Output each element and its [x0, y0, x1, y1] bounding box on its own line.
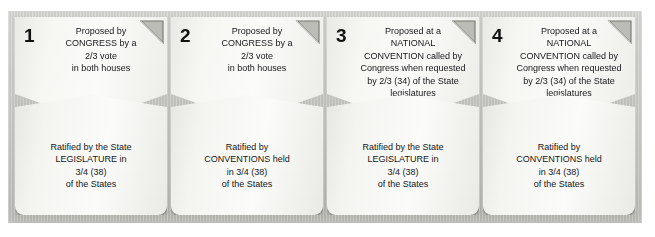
ratification-line: Ratified by the State — [20, 141, 162, 153]
panel-number: 3 — [336, 26, 346, 45]
envelope-body: Ratified byCONVENTIONS heldin 3/4 (38)of… — [171, 95, 323, 215]
ratification-line: Ratified by — [176, 141, 318, 153]
proposal-line: CONVENTION called by — [353, 50, 473, 62]
proposal-line: in both houses — [41, 62, 161, 74]
ratification-line: Ratified by — [488, 141, 630, 153]
panel-number: 1 — [24, 26, 34, 45]
page-curl-icon — [295, 19, 321, 45]
proposal-line: 2/3 vote — [197, 50, 317, 62]
ratification-line: LEGISLATURE in — [20, 153, 162, 165]
amendment-process-diagram: 1Proposed byCONGRESS by a2/3 votein both… — [0, 0, 655, 237]
ratification-line: CONVENTIONS held — [488, 153, 630, 165]
proposal-line: by 2/3 (34) of the State — [353, 75, 473, 87]
amendment-method-panel-4[interactable]: 4Proposed at aNATIONALCONVENTION called … — [483, 17, 635, 215]
amendment-method-panel-2[interactable]: 2Proposed byCONGRESS by a2/3 votein both… — [171, 17, 323, 215]
panel-number: 4 — [492, 26, 502, 45]
ratification-line: in 3/4 (38) — [176, 166, 318, 178]
ratification-line: of the States — [20, 178, 162, 190]
page-curl-icon — [607, 19, 633, 45]
ratification-line: in 3/4 (38) — [488, 166, 630, 178]
envelope-body: Ratified by the StateLEGISLATURE in3/4 (… — [15, 95, 167, 215]
ratification-text: Ratified by the StateLEGISLATURE in3/4 (… — [20, 141, 162, 191]
envelope-body: Ratified by the StateLEGISLATURE in3/4 (… — [327, 95, 479, 215]
ratification-line: of the States — [176, 178, 318, 190]
envelope-body: Ratified byCONVENTIONS heldin 3/4 (38)of… — [483, 95, 635, 215]
ratification-line: 3/4 (38) — [20, 166, 162, 178]
ratification-line: 3/4 (38) — [332, 166, 474, 178]
page-curl-icon — [139, 19, 165, 45]
proposal-line: Congress when requested — [509, 62, 629, 74]
panel-row: 1Proposed byCONGRESS by a2/3 votein both… — [8, 11, 642, 223]
ratification-line: of the States — [488, 178, 630, 190]
ratification-text: Ratified by the StateLEGISLATURE in3/4 (… — [332, 141, 474, 191]
proposal-line: Congress when requested — [353, 62, 473, 74]
amendment-method-panel-3[interactable]: 3Proposed at aNATIONALCONVENTION called … — [327, 17, 479, 215]
ratification-line: CONVENTIONS held — [176, 153, 318, 165]
proposal-line: by 2/3 (34) of the State — [509, 75, 629, 87]
proposal-line: in both houses — [197, 62, 317, 74]
proposal-line: 2/3 vote — [41, 50, 161, 62]
ratification-line: Ratified by the State — [332, 141, 474, 153]
panel-number: 2 — [180, 26, 190, 45]
ratification-text: Ratified byCONVENTIONS heldin 3/4 (38)of… — [488, 141, 630, 191]
ratification-line: LEGISLATURE in — [332, 153, 474, 165]
amendment-method-panel-1[interactable]: 1Proposed byCONGRESS by a2/3 votein both… — [15, 17, 167, 215]
page-curl-icon — [451, 19, 477, 45]
proposal-line: CONVENTION called by — [509, 50, 629, 62]
ratification-line: of the States — [332, 178, 474, 190]
ratification-text: Ratified byCONVENTIONS heldin 3/4 (38)of… — [176, 141, 318, 191]
